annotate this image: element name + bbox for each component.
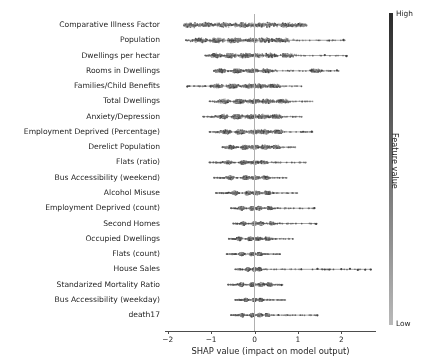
feature-label: Occupied Dwellings (0, 235, 160, 243)
feature-label: Families/Child Benefits (0, 82, 160, 90)
x-tick-mark (298, 331, 299, 334)
feature-label: Anxiety/Depression (0, 113, 160, 121)
feature-label: Flats (ratio) (0, 158, 160, 166)
x-tick-label: −1 (206, 335, 217, 344)
zero-reference-line (254, 14, 255, 332)
feature-name-axis: Comparative Illness FactorPopulationDwel… (0, 0, 160, 363)
feature-label: Second Homes (0, 220, 160, 228)
x-tick-mark (341, 331, 342, 334)
x-axis-line (165, 331, 376, 332)
x-tick-label: 0 (252, 335, 257, 344)
colorbar-low-label: Low (396, 319, 411, 328)
colorbar-title: Feature value (390, 133, 399, 189)
feature-label: Derelict Population (0, 143, 160, 151)
feature-label: Standarized Mortality Ratio (0, 281, 160, 289)
feature-label: Bus Accessibility (weekend) (0, 174, 160, 182)
x-tick-label: 1 (296, 335, 301, 344)
feature-label: Employment Deprived (Percentage) (0, 128, 160, 136)
feature-label: Comparative Illness Factor (0, 21, 160, 29)
feature-label: Dwellings per hectar (0, 52, 160, 60)
x-tick-mark (168, 331, 169, 334)
colorbar-high-label: High (396, 9, 413, 18)
shap-summary-plot-figure: Comparative Illness FactorPopulationDwel… (0, 0, 427, 363)
feature-label: Bus Accessibility (weekday) (0, 296, 160, 304)
x-tick-label: 2 (339, 335, 344, 344)
feature-label: Employment Deprived (count) (0, 204, 160, 212)
feature-label: Alcohol Misuse (0, 189, 160, 197)
feature-label: Rooms in Dwellings (0, 67, 160, 75)
feature-label: Total Dwellings (0, 97, 160, 105)
feature-label: Flats (count) (0, 250, 160, 258)
feature-label: death17 (0, 311, 160, 319)
feature-label: House Sales (0, 265, 160, 273)
x-tick-mark (211, 331, 212, 334)
x-tick-label: −2 (162, 335, 173, 344)
x-tick-mark (255, 331, 256, 334)
x-axis-title: SHAP value (impact on model output) (165, 346, 376, 357)
feature-label: Population (0, 36, 160, 44)
